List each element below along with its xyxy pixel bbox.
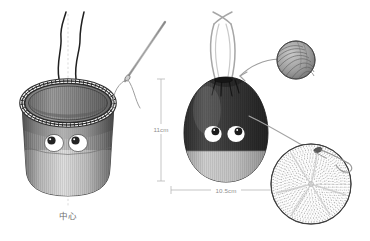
construction-diagram: 中心 11cm 10.5cm	[0, 0, 370, 241]
width-dimension-label: 10.5cm	[216, 187, 237, 194]
callout-arrow	[240, 59, 279, 81]
height-dimension-label: 11cm	[153, 126, 168, 133]
pupil-highlight-left	[213, 129, 215, 131]
crochet-base-disc	[271, 144, 351, 224]
pouch-cinch-knot	[215, 77, 233, 82]
pouch-texture	[182, 70, 272, 187]
pupil-left	[47, 136, 55, 144]
pupil-highlight-right	[73, 138, 75, 140]
center-label: 中心	[59, 211, 77, 221]
thread-right	[128, 80, 140, 108]
yarn-ball	[277, 41, 315, 79]
drawstring-handle	[210, 12, 235, 82]
pupil-highlight-left	[49, 138, 51, 140]
left-basket-figure: 中心	[20, 12, 118, 221]
needle-and-thread	[113, 22, 165, 108]
drawstring-cord-right	[76, 12, 84, 79]
pupil-right	[235, 127, 243, 135]
pupil-right	[71, 136, 79, 144]
illustration-canvas: 中心 11cm 10.5cm	[0, 0, 370, 241]
dimension-height: 11cm	[152, 79, 171, 181]
right-pouch-figure	[182, 12, 272, 187]
pupil-highlight-right	[236, 129, 238, 131]
drawstring-cord-left	[58, 12, 66, 79]
pupil-left	[212, 127, 220, 135]
dimension-width: 10.5cm	[171, 185, 281, 195]
